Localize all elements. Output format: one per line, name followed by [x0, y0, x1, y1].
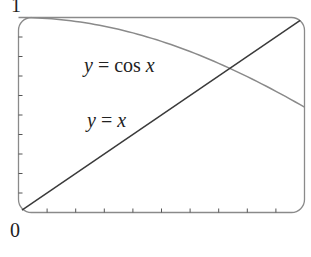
lin-label-x: x — [116, 109, 126, 131]
identity-line-label: y = x — [85, 109, 126, 132]
cos-curve — [19, 18, 305, 108]
identity-line — [22, 20, 300, 210]
y-tick-label-bottom: 0 — [10, 219, 20, 241]
y-tick-label-top: 1 — [11, 0, 21, 16]
lin-label-mid: = — [96, 109, 117, 131]
lin-label-y: y — [85, 109, 96, 132]
cos-label-mid: = cos — [93, 54, 146, 76]
cos-label-x: x — [145, 54, 155, 76]
chart: 1 0 y = cos x y = x — [0, 0, 311, 257]
cos-curve-label: y = cos x — [82, 54, 155, 77]
cos-label-y: y — [82, 54, 93, 77]
